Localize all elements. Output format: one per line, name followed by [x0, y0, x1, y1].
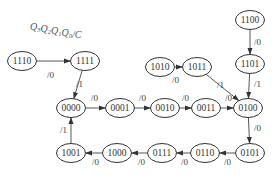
state-1101: 1101	[236, 55, 265, 74]
state-label: 0100	[239, 103, 258, 113]
transition-1111-to-0000: /1	[74, 70, 83, 98]
state-0001: 0001	[106, 99, 135, 118]
transition-1001-to-0000: /1	[60, 118, 71, 144]
transition-output-label: /1	[217, 80, 224, 90]
state-1111: 1111	[71, 52, 100, 71]
transition-output-label: /0	[254, 37, 262, 47]
state-label: 1011	[188, 62, 207, 72]
arrow-icon	[248, 117, 249, 143]
transition-1100-to-1101: /0	[250, 30, 262, 55]
state-1011: 1011	[183, 58, 212, 77]
state-0110: 0110	[191, 144, 220, 163]
diagram-title: Q3Q2Q1Q0/C	[30, 21, 82, 40]
state-0000: 0000	[57, 99, 86, 118]
state-0100: 0100	[234, 99, 263, 118]
state-label: 1111	[76, 56, 94, 66]
state-label: 0001	[111, 103, 130, 113]
state-label: 0010	[156, 103, 175, 113]
transition-output-label: /1	[60, 125, 67, 135]
transition-output-label: /0	[172, 75, 180, 85]
transition-0101-to-0110: /0	[220, 153, 236, 167]
arrow-icon	[248, 73, 249, 98]
transition-0110-to-0111: /0	[177, 153, 191, 167]
state-label: 1101	[241, 59, 260, 69]
transition-output-label: /0	[225, 93, 233, 103]
state-label: 0111	[153, 148, 172, 158]
diagram-svg: Q3Q2Q1Q0/C /0/1/0/0/1/1/0/0/0/0/0/0/0/0/…	[0, 0, 275, 180]
state-1000: 1000	[103, 144, 132, 163]
state-label: 1000	[108, 148, 127, 158]
transition-output-label: /0	[138, 157, 146, 167]
state-label: 1100	[241, 15, 260, 25]
state-1001: 1001	[57, 144, 86, 163]
transition-output-label: /1	[254, 79, 261, 89]
state-0111: 0111	[148, 144, 177, 163]
transition-0010-to-0011: /0	[180, 93, 192, 108]
state-1010: 1010	[146, 58, 175, 77]
transition-1101-to-0100: /1	[248, 73, 261, 98]
state-1100: 1100	[236, 11, 265, 30]
state-label: 0000	[62, 103, 81, 113]
transition-output-label: /0	[47, 70, 55, 80]
transition-0111-to-1000: /0	[132, 153, 148, 167]
state-label: 0011	[197, 103, 216, 113]
transition-0011-to-0100: /0	[221, 93, 234, 108]
state-0011: 0011	[192, 99, 221, 118]
state-0010: 0010	[151, 99, 180, 118]
transition-output-label: /0	[182, 93, 190, 103]
transition-0000-to-0001: /0	[86, 93, 106, 108]
transition-1110-to-1111: /0	[37, 61, 71, 80]
transition-output-label: /0	[139, 93, 147, 103]
transition-0100-to-0101: /0	[248, 117, 261, 143]
state-0101: 0101	[236, 144, 265, 163]
state-label: 1001	[62, 148, 81, 158]
state-label: 1010	[151, 62, 170, 72]
state-label: 0101	[241, 148, 260, 158]
transition-output-label: /1	[76, 79, 83, 89]
state-label: 1110	[13, 56, 32, 66]
transition-1000-to-1001: /0	[86, 153, 103, 167]
transition-0001-to-0010: /0	[135, 93, 151, 108]
transition-1011-to-0100: /1	[206, 74, 239, 100]
transition-output-label: /0	[181, 157, 189, 167]
transition-output-label: /0	[254, 123, 262, 133]
transition-output-label: /0	[92, 157, 100, 167]
transition-output-label: /0	[224, 157, 232, 167]
state-1110: 1110	[8, 52, 37, 71]
state-diagram: Q3Q2Q1Q0/C /0/1/0/0/1/1/0/0/0/0/0/0/0/0/…	[0, 0, 275, 180]
transition-output-label: /0	[91, 93, 99, 103]
state-label: 0110	[196, 148, 215, 158]
